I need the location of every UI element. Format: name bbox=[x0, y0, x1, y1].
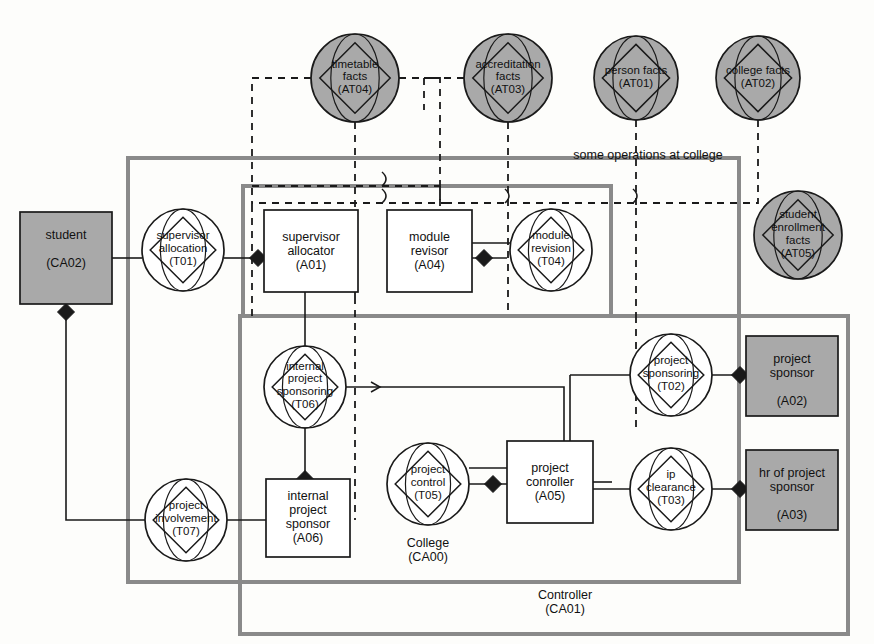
actor-box-a06[interactable] bbox=[266, 479, 350, 557]
conn-student-t07 bbox=[66, 304, 145, 520]
fact-circle-at02[interactable] bbox=[716, 36, 800, 120]
node-t01 bbox=[142, 209, 224, 291]
node-t06 bbox=[264, 346, 346, 428]
diagram-svg bbox=[0, 0, 874, 644]
actor-box-a03[interactable] bbox=[746, 450, 838, 530]
transaction-circle-t06[interactable] bbox=[264, 346, 346, 428]
actor-box-a01[interactable] bbox=[264, 210, 358, 292]
conn-t06-to-a05 bbox=[380, 387, 564, 441]
fact-circle-at01[interactable] bbox=[594, 36, 678, 120]
fact-circle-at05[interactable] bbox=[754, 191, 842, 279]
node-at03 bbox=[464, 34, 552, 122]
diamond-student bbox=[58, 304, 75, 321]
node-at05 bbox=[754, 191, 842, 279]
diamond-a05 bbox=[485, 476, 502, 493]
node-at01 bbox=[594, 36, 678, 120]
actor-box-a04[interactable] bbox=[387, 210, 472, 292]
fact-circle-at03[interactable] bbox=[464, 34, 552, 122]
actor-box-a02[interactable] bbox=[746, 336, 838, 416]
actor-box-a05[interactable] bbox=[507, 441, 593, 523]
crossing-jump-4 bbox=[382, 172, 386, 186]
diagram-canvas: timetable facts (AT04)accreditation fact… bbox=[0, 0, 874, 644]
node-at04 bbox=[311, 34, 399, 122]
diamond-a04 bbox=[476, 250, 493, 267]
node-t07 bbox=[145, 479, 227, 561]
transaction-circle-t01[interactable] bbox=[142, 209, 224, 291]
node-at02 bbox=[716, 36, 800, 120]
node-t02 bbox=[630, 334, 712, 416]
transaction-circle-t05[interactable] bbox=[387, 443, 469, 525]
crossing-jump-1 bbox=[382, 189, 386, 203]
transaction-circle-t03[interactable] bbox=[630, 448, 712, 530]
node-t03 bbox=[630, 448, 712, 530]
transaction-circle-t07[interactable] bbox=[145, 479, 227, 561]
node-t05 bbox=[387, 443, 469, 525]
transaction-circle-t04[interactable] bbox=[510, 209, 592, 291]
dashed-at02-down-left bbox=[712, 120, 758, 203]
actor-box-ca02[interactable] bbox=[20, 212, 112, 304]
node-t04 bbox=[510, 209, 592, 291]
transaction-circle-t02[interactable] bbox=[630, 334, 712, 416]
fact-circle-at04[interactable] bbox=[311, 34, 399, 122]
